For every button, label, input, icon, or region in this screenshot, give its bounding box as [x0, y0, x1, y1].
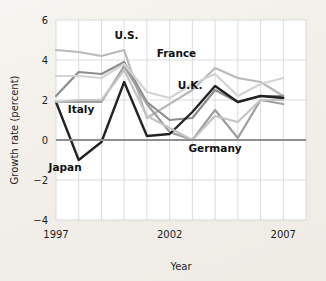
y-tick-label-0: 0 — [42, 135, 48, 146]
series-label-france: France — [157, 47, 197, 59]
series-label-italy: Italy — [68, 103, 95, 115]
growth-rate-line-chart: −4−20246 199720022007 Growth rate (perce… — [0, 0, 326, 281]
y-tick-label--4: −4 — [33, 215, 48, 226]
y-axis-ticks: −4−20246 — [33, 15, 48, 226]
x-tick-label-2002: 2002 — [157, 229, 182, 240]
series-label-u-s: U.S. — [114, 29, 138, 41]
y-tick-label-6: 6 — [42, 15, 48, 26]
x-axis-label: Year — [169, 261, 192, 272]
y-tick-label--2: −2 — [33, 175, 48, 186]
x-tick-label-1997: 1997 — [43, 229, 68, 240]
x-tick-label-2007: 2007 — [271, 229, 296, 240]
figure-container: −4−20246 199720022007 Growth rate (perce… — [0, 0, 326, 281]
y-tick-label-2: 2 — [42, 95, 48, 106]
series-label-japan: Japan — [48, 161, 82, 173]
x-axis-ticks: 199720022007 — [43, 229, 296, 240]
series-label-germany: Germany — [188, 142, 241, 154]
series-label-u-k: U.K. — [178, 79, 203, 91]
y-tick-label-4: 4 — [42, 55, 48, 66]
y-axis-label: Growth rate (percent) — [9, 75, 20, 184]
